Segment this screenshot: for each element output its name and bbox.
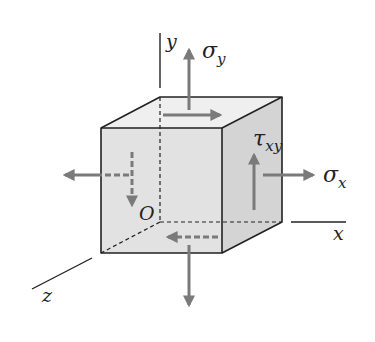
origin-label: O (139, 202, 155, 224)
z-axis (32, 258, 92, 289)
cube-front-face (101, 128, 222, 253)
x-axis-label: x (333, 222, 344, 244)
stress-element-diagram: y x z O σy σx τxy (0, 0, 375, 342)
y-axis-label: y (165, 30, 177, 52)
sigma-y-label: σy (202, 38, 226, 68)
z-axis-label: z (41, 284, 53, 306)
sigma-x-label: σx (323, 162, 347, 192)
